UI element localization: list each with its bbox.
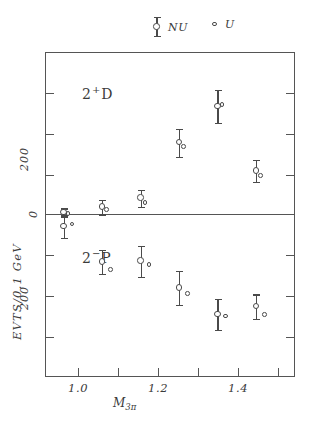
error-cap-bottom	[176, 305, 183, 306]
x-tick-1p5	[278, 368, 279, 377]
error-cap-top	[138, 190, 145, 191]
marker-small-circle	[181, 144, 186, 149]
legend-label-u: U	[225, 18, 235, 31]
error-cap-bottom	[253, 182, 260, 183]
panel-label-upper-main: 2	[82, 86, 92, 102]
error-cap-bottom	[215, 123, 222, 124]
marker-small-circle	[185, 291, 190, 296]
error-cap-bottom	[215, 330, 222, 331]
legend-entry-nu: NU	[151, 16, 188, 38]
zero-axis-line	[45, 214, 295, 215]
marker-open-circle	[176, 284, 183, 291]
y-tick-right-250-up	[286, 134, 295, 135]
marker-open-circle	[137, 257, 144, 264]
error-cap-top	[253, 160, 260, 161]
y-tick-right-zero	[286, 214, 295, 215]
error-cap-bottom	[61, 238, 68, 239]
error-cap-top	[99, 200, 106, 201]
error-cap-bottom	[99, 214, 106, 215]
error-cap-top	[253, 294, 260, 295]
y-axis-title: EVTS/0.1 GeV	[10, 243, 24, 340]
error-cap-top	[176, 129, 183, 130]
error-cap-top	[138, 246, 145, 247]
x-tick-label-1p0: 1.0	[68, 381, 88, 395]
x-tick-1p4	[238, 368, 239, 377]
x-tick-1p1	[118, 368, 119, 377]
y-tick-left-200-up	[45, 175, 54, 176]
panel-label-lower-main: 2	[82, 250, 92, 266]
marker-open-circle	[214, 311, 221, 318]
panel-label-upper-tail: D	[101, 86, 113, 102]
errorbar-circle-marker-icon	[151, 16, 163, 38]
y-tick-right-200-up	[286, 175, 295, 176]
x-axis-title-sub: 3π	[125, 402, 136, 412]
x-tick-1p0	[78, 368, 79, 377]
marker-open-circle	[60, 223, 67, 230]
marker-open-circle	[253, 303, 260, 310]
panel-label-upper-sup: +	[92, 84, 101, 95]
x-tick-1p2	[158, 368, 159, 377]
y-tick-right-300-dn	[286, 337, 295, 338]
x-tick-label-1p4: 1.4	[228, 381, 248, 395]
chart-root: NU U 200 0 200 EVTS/0.1 GeV 1.0 1.2 1.4 …	[0, 0, 316, 424]
error-cap-bottom	[138, 207, 145, 208]
legend-entry-u: U	[212, 18, 235, 31]
y-tick-left-zero	[45, 214, 54, 215]
x-tick-label-1p2: 1.2	[148, 381, 168, 395]
error-cap-top	[61, 215, 68, 216]
error-cap-bottom	[253, 319, 260, 320]
open-circle-marker-icon	[212, 21, 220, 29]
error-cap-top	[99, 250, 106, 251]
error-cap-bottom	[138, 277, 145, 278]
marker-small-circle	[147, 262, 152, 267]
error-cap-top	[176, 271, 183, 272]
marker-small-circle	[108, 267, 113, 272]
panel-label-upper: 2+D	[82, 84, 114, 102]
y-tick-label-zero: 0	[27, 210, 40, 218]
legend-label-nu: NU	[168, 21, 188, 34]
marker-small-circle	[143, 200, 148, 205]
y-tick-left-250-up	[45, 134, 54, 135]
x-tick-1p3	[198, 368, 199, 377]
marker-small-circle	[258, 173, 263, 178]
marker-small-circle	[104, 207, 109, 212]
y-tick-left-300-up	[45, 93, 54, 94]
chart-legend: NU U	[0, 14, 316, 44]
error-cap-bottom	[176, 157, 183, 158]
y-tick-left-200-dn	[45, 296, 54, 297]
panel-label-lower: 2−P	[82, 248, 112, 266]
y-tick-right-300-up	[286, 93, 295, 94]
y-tick-right-200-dn	[286, 296, 295, 297]
marker-small-circle	[262, 312, 267, 317]
y-tick-left-100-dn	[45, 255, 54, 256]
y-tick-right-100-dn	[286, 255, 295, 256]
error-cap-bottom	[99, 274, 106, 275]
error-cap-top	[215, 299, 222, 300]
y-tick-label-200-upper: 200	[18, 147, 31, 171]
y-tick-left-300-dn	[45, 337, 54, 338]
x-axis-title-main: M	[113, 396, 125, 410]
marker-open-circle	[99, 258, 106, 265]
error-cap-top	[215, 90, 222, 91]
x-axis-title: M3π	[113, 396, 136, 412]
